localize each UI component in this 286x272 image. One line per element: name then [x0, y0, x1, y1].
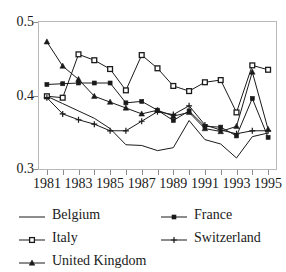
- plot-series-svg: [39, 22, 276, 169]
- data-point-open-square: [266, 67, 271, 72]
- x-tick-mark: [47, 170, 48, 175]
- data-point-plus: [76, 117, 82, 123]
- x-tick-label: 1983: [65, 176, 93, 192]
- x-axis-ticks: [38, 170, 277, 175]
- x-tick-mark: [252, 170, 253, 175]
- x-tick-label: 1989: [159, 176, 187, 192]
- x-tick-mark: [189, 170, 190, 175]
- data-point-open-square: [187, 89, 192, 94]
- x-tick-mark: [142, 170, 143, 175]
- data-point-open-square: [30, 238, 35, 243]
- data-point-open-square: [203, 80, 208, 85]
- legend-marker-none-icon: [18, 209, 46, 221]
- x-tick-label: 1995: [254, 176, 282, 192]
- x-tick-mark: [237, 170, 238, 175]
- x-tick-mark: [126, 170, 127, 175]
- data-point-filled-square: [172, 215, 176, 219]
- series-switzerland: [44, 95, 271, 137]
- data-point-open-square: [139, 53, 144, 58]
- data-point-open-square: [250, 63, 255, 68]
- data-point-plus: [123, 128, 129, 134]
- data-point-open-square: [234, 110, 239, 115]
- legend-label: Italy: [52, 231, 78, 245]
- data-point-open-square: [76, 52, 81, 57]
- data-point-open-square: [218, 78, 223, 83]
- data-point-open-square: [108, 67, 113, 72]
- legend-item-switzerland[interactable]: Switzerland: [160, 228, 261, 248]
- data-point-filled-square: [266, 135, 270, 139]
- legend-label: Belgium: [52, 208, 100, 222]
- data-point-filled-square: [171, 118, 175, 122]
- x-tick-label: 1985: [96, 176, 124, 192]
- data-point-filled-square: [124, 101, 128, 105]
- x-tick-label: 1987: [128, 176, 156, 192]
- data-point-filled-square: [250, 96, 254, 100]
- legend-label: United Kingdom: [52, 254, 147, 268]
- x-axis-labels: 19811983198519871989199119931995: [0, 176, 286, 196]
- x-tick-label: 1991: [191, 176, 219, 192]
- plot-area: [38, 21, 277, 170]
- legend-label: France: [194, 208, 232, 222]
- legend-marker-filled-square-icon: [160, 209, 188, 221]
- legend-marker-plus-icon: [160, 232, 188, 244]
- y-tick-label: 0.4: [0, 89, 34, 103]
- y-tick-label: 0.5: [0, 15, 34, 29]
- x-tick-mark: [268, 170, 269, 175]
- chart-figure: 0.30.40.5 198119831985198719891991199319…: [0, 0, 286, 272]
- legend-marker-filled-triangle-icon: [18, 255, 46, 267]
- data-point-open-square: [92, 58, 97, 63]
- y-tick-label: 0.3: [0, 162, 34, 176]
- data-point-plus: [139, 118, 145, 124]
- x-tick-mark: [110, 170, 111, 175]
- data-point-open-square: [60, 95, 65, 100]
- legend-label: Switzerland: [194, 231, 261, 245]
- legend-marker-open-square-icon: [18, 232, 46, 244]
- data-point-filled-triangle: [234, 123, 240, 128]
- x-tick-mark: [158, 170, 159, 175]
- x-tick-mark: [63, 170, 64, 175]
- x-tick-mark: [173, 170, 174, 175]
- data-point-plus: [91, 121, 97, 127]
- chart-title: [0, 0, 286, 1]
- x-tick-label: 1993: [223, 176, 251, 192]
- legend-item-france[interactable]: France: [160, 205, 232, 225]
- legend-item-belgium[interactable]: Belgium: [18, 205, 100, 225]
- chart-legend: BelgiumFranceItalySwitzerlandUnited King…: [0, 205, 286, 272]
- data-point-filled-square: [140, 99, 144, 103]
- x-tick-mark: [79, 170, 80, 175]
- x-tick-mark: [221, 170, 222, 175]
- data-point-filled-square: [61, 82, 65, 86]
- legend-item-italy[interactable]: Italy: [18, 228, 78, 248]
- data-point-filled-square: [108, 81, 112, 85]
- x-tick-mark: [94, 170, 95, 175]
- data-point-open-square: [171, 84, 176, 89]
- data-point-plus: [249, 128, 255, 134]
- data-point-open-square: [155, 66, 160, 71]
- data-point-filled-square: [92, 81, 96, 85]
- data-point-filled-triangle: [44, 39, 50, 44]
- data-point-plus: [107, 128, 113, 134]
- x-tick-label: 1981: [33, 176, 61, 192]
- data-point-open-square: [124, 88, 129, 93]
- x-tick-mark: [205, 170, 206, 175]
- legend-item-united-kingdom[interactable]: United Kingdom: [18, 251, 147, 271]
- data-point-filled-triangle: [265, 126, 271, 131]
- data-point-plus: [171, 237, 177, 243]
- data-point-filled-square: [45, 82, 49, 86]
